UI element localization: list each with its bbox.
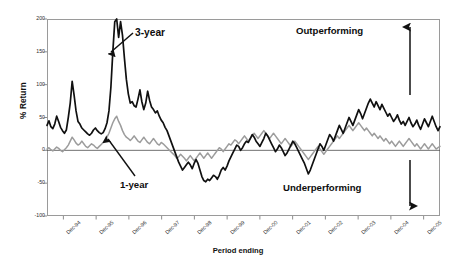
x-tick-label: Dec-95 (99, 220, 116, 236)
chart-figure: % Return 200150100500-50-100 3-year 1-ye… (0, 0, 458, 265)
y-tick-label: 200 (17, 16, 45, 21)
annotation-3year: 3-year (135, 27, 165, 38)
y-tick-label: 100 (17, 82, 45, 87)
y-tick-label: -50 (17, 181, 45, 186)
x-tick-label: Dec-97 (164, 220, 181, 236)
y-tick-label: -100 (17, 213, 45, 218)
y-tick-label: 0 (17, 148, 45, 153)
plot-area (47, 19, 440, 216)
x-tick-label: Dec-02 (328, 220, 345, 236)
x-tick-label: Dec-01 (295, 220, 312, 236)
annotation-underperforming: Underperforming (283, 182, 361, 193)
y-tick-label: 50 (17, 115, 45, 120)
y-axis-ticks: 200150100500-50-100 (13, 19, 45, 216)
x-tick-label: Dec-04 (393, 220, 410, 236)
annotation-1year: 1-year (120, 179, 148, 190)
x-axis-title: Period ending (178, 246, 298, 255)
x-tick-label: Dec-94 (66, 220, 83, 236)
x-tick-label: Dec-05 (426, 220, 443, 236)
x-tick-label: Dec-98 (197, 220, 214, 236)
annotation-outperforming: Outperforming (296, 25, 363, 36)
x-axis-ticks: Dec-94Dec-95Dec-96Dec-97Dec-98Dec-99Dec-… (47, 216, 440, 250)
x-tick-label: Dec-96 (131, 220, 148, 236)
x-tick-label: Dec-99 (230, 220, 247, 236)
x-tick-label: Dec-00 (262, 220, 279, 236)
x-tick-label: Dec-03 (361, 220, 378, 236)
y-tick-label: 150 (17, 49, 45, 54)
